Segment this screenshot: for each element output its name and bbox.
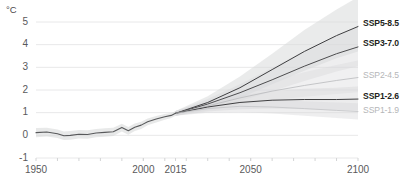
legend-item-ssp3-7-0[interactable]: SSP3-7.0 [363,38,399,48]
uncertainty-bands [36,0,358,140]
y-axis-tick-label: 4 [0,38,28,49]
y-axis-tick-label: 5 [0,16,28,27]
y-axis-tick-label: -1 [0,152,28,163]
legend-item-ssp5-8-5[interactable]: SSP5-8.5 [363,18,399,28]
y-axis-tick-label: 1 [0,106,28,117]
y-axis-tick-label: 2 [0,84,28,95]
x-axis-tick-label: 2050 [231,164,271,175]
y-axis-tick-label: 3 [0,61,28,72]
temperature-projection-chart: °C 543210-1 19502000201520502100 SSP5-8.… [0,0,415,186]
legend-item-ssp1-1-9[interactable]: SSP1-1.9 [363,105,399,115]
x-axis-tick-label: 2100 [338,164,378,175]
chart-plot-area [0,0,415,186]
x-axis-tick-label: 1950 [16,164,56,175]
y-axis-tick-label: 0 [0,129,28,140]
legend-item-ssp2-4-5[interactable]: SSP2-4.5 [363,70,399,80]
legend-item-ssp1-2-6[interactable]: SSP1-2.6 [363,91,399,101]
x-axis-tick-label: 2015 [156,164,196,175]
